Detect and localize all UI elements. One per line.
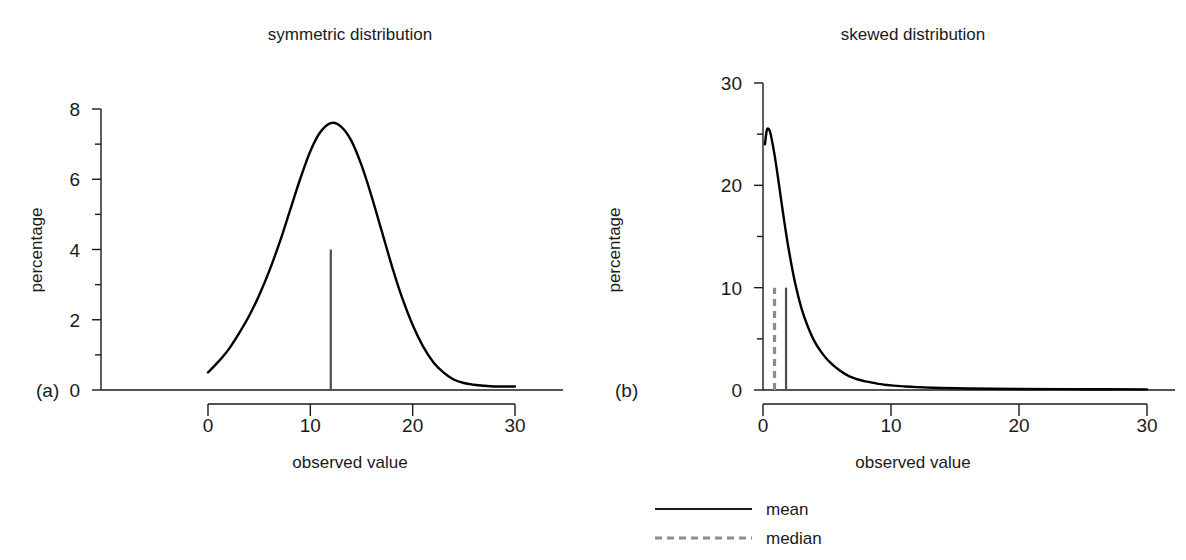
- x-tick-label: 0: [203, 415, 214, 436]
- panel-b-stat-markers: [775, 288, 787, 390]
- panel-a-tag: (a): [36, 380, 59, 401]
- panel-b-x-axis-label: observed value: [855, 453, 970, 472]
- panel-b-tag: (b): [615, 380, 638, 401]
- x-tick-label: 10: [300, 415, 321, 436]
- x-tick-label: 0: [758, 415, 769, 436]
- panel-a: symmetric distribution percentage (a) 02…: [27, 25, 563, 472]
- chart-svg: symmetric distribution percentage (a) 02…: [0, 0, 1186, 560]
- panel-b-y-axis-label: percentage: [605, 207, 624, 292]
- y-tick-label: 10: [721, 278, 742, 299]
- y-tick-label: 6: [69, 169, 80, 190]
- panel-a-title: symmetric distribution: [268, 25, 432, 44]
- x-tick-label: 10: [880, 415, 901, 436]
- y-tick-label: 0: [731, 380, 742, 401]
- panel-a-x-axis: 0102030: [101, 390, 563, 436]
- panel-a-x-axis-label: observed value: [292, 453, 407, 472]
- y-tick-label: 4: [69, 240, 80, 261]
- panel-b-density-curve: [765, 128, 1147, 389]
- panel-b-x-axis: 0102030: [758, 390, 1175, 436]
- x-tick-label: 20: [1008, 415, 1029, 436]
- y-tick-label: 8: [69, 99, 80, 120]
- x-tick-label: 20: [402, 415, 423, 436]
- legend-mean-label: mean: [766, 500, 809, 519]
- panel-b-y-axis: 0102030: [721, 73, 763, 401]
- legend: mean median: [655, 500, 822, 548]
- density-curve-path: [208, 123, 515, 387]
- y-tick-label: 0: [69, 380, 80, 401]
- legend-median-label: median: [766, 529, 822, 548]
- panel-a-y-axis-label: percentage: [27, 207, 46, 292]
- x-tick-label: 30: [504, 415, 525, 436]
- y-tick-label: 30: [721, 73, 742, 94]
- panel-b-title: skewed distribution: [841, 25, 986, 44]
- y-tick-label: 20: [721, 175, 742, 196]
- density-curve-path: [765, 128, 1147, 389]
- y-tick-label: 2: [69, 310, 80, 331]
- panel-a-density-curve: [208, 123, 515, 387]
- figure-container: symmetric distribution percentage (a) 02…: [0, 0, 1186, 560]
- x-tick-label: 30: [1136, 415, 1157, 436]
- panel-b: skewed distribution percentage (b) 01020…: [605, 25, 1175, 472]
- panel-a-y-axis: 02468: [69, 99, 101, 401]
